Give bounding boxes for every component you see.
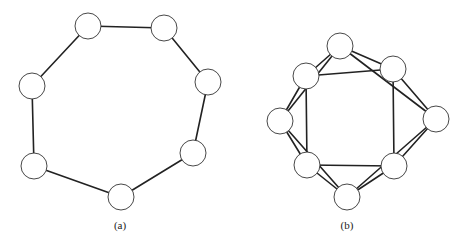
panel-b-circulant-graph: (b): [267, 33, 449, 232]
graph-node: [381, 153, 407, 179]
graph-node: [267, 108, 293, 134]
panel-a-nodes: [19, 13, 221, 210]
panel-a-edges: [32, 26, 208, 197]
graph-node: [423, 106, 449, 132]
panel-a-cycle-graph: (a): [19, 13, 221, 232]
graph-node: [75, 13, 101, 39]
graph-node: [293, 63, 319, 89]
graph-node: [19, 73, 45, 99]
panel-b-caption: (b): [341, 219, 354, 232]
graph-node: [180, 140, 206, 166]
graph-node: [334, 184, 360, 210]
graph-edge: [34, 166, 121, 197]
graph-node: [151, 15, 177, 41]
graph-node: [294, 152, 320, 178]
graph-node: [108, 184, 134, 210]
graph-node: [327, 33, 353, 59]
graph-figure: (a) (b): [0, 0, 464, 241]
panel-a-caption: (a): [114, 219, 127, 232]
graph-node: [195, 69, 221, 95]
graph-node: [380, 56, 406, 82]
graph-node: [21, 153, 47, 179]
graph-edge: [393, 69, 394, 166]
